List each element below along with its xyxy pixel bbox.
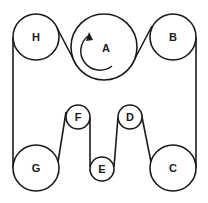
- pulley-d: D: [118, 105, 142, 129]
- pulley-label-a: A: [102, 42, 110, 54]
- pulley-label-c: C: [169, 162, 177, 174]
- pulley-c: C: [150, 145, 196, 191]
- pulley-label-f: F: [75, 111, 82, 123]
- pulley-h: H: [13, 14, 59, 60]
- belt-segment-f-g: [58, 112, 66, 162]
- pulley-e: E: [90, 157, 114, 181]
- pulley-f: F: [66, 105, 90, 129]
- pulley-label-h: H: [32, 31, 40, 43]
- pulley-b: B: [150, 14, 196, 60]
- belt-pulley-diagram: H A B F D E G C: [0, 0, 208, 203]
- pulley-label-g: G: [32, 162, 41, 174]
- pulley-label-e: E: [98, 163, 105, 175]
- belt-segment-d-e: [114, 117, 118, 167]
- pulley-a: A: [71, 14, 137, 80]
- pulley-label-d: D: [126, 111, 134, 123]
- pulley-label-b: B: [169, 31, 177, 43]
- pulley-g: G: [13, 145, 59, 191]
